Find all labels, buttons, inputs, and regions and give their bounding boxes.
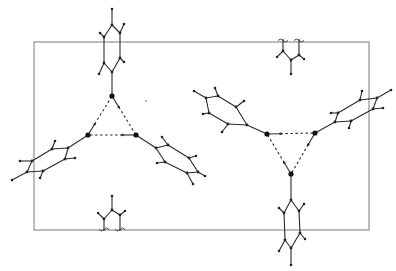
- ring-bond: [165, 162, 187, 173]
- carbon-atom: [188, 157, 191, 160]
- fragment-atom: [282, 50, 285, 53]
- carbon-atom: [208, 112, 211, 115]
- c-h-bond: [236, 101, 244, 107]
- hydrogen-atom: [123, 61, 126, 64]
- ring-bond: [285, 240, 291, 248]
- ring-bond: [187, 172, 198, 173]
- carbon-atom: [111, 71, 114, 74]
- ring-bond: [284, 200, 291, 213]
- n-c-bond: [68, 135, 88, 148]
- ring-bond: [209, 113, 228, 124]
- n-c-bond: [315, 122, 335, 133]
- fragment-atom: [298, 54, 301, 57]
- hydrogen-atom: [278, 207, 281, 210]
- carbon-atom: [103, 36, 106, 39]
- nitrogen-atom: [133, 132, 138, 137]
- n-c-bond: [136, 135, 156, 148]
- carbon-atom: [376, 97, 379, 100]
- fragment-atom: [97, 212, 99, 214]
- hydrogen-atom: [304, 238, 307, 241]
- unit-cell-outline: [34, 42, 369, 230]
- fragment-bond: [291, 55, 299, 60]
- nitrogen-atom: [288, 171, 293, 176]
- carbon-atom: [64, 158, 67, 161]
- carbon-atom: [290, 247, 293, 250]
- ring-bond: [104, 25, 112, 37]
- hydrogen-atom: [99, 32, 102, 35]
- carbon-atom: [227, 123, 230, 126]
- carbon-atom: [217, 95, 220, 98]
- carbon-atom: [284, 239, 287, 242]
- hydrogen-atom: [278, 250, 281, 253]
- hydrogen-bond-dashed: [291, 144, 308, 174]
- n-c-bond: [247, 125, 267, 134]
- ring-bond: [27, 161, 32, 172]
- carbon-atom: [337, 112, 340, 115]
- hydrogen-bond-dashed: [267, 134, 284, 163]
- fragment-atom: [119, 214, 122, 217]
- c-h-bond: [377, 90, 391, 98]
- ring-bond: [32, 149, 52, 161]
- hydrogen-atom: [330, 112, 333, 115]
- hydrogen-atom: [204, 175, 207, 178]
- c-h-bond: [99, 63, 104, 74]
- ring-bond: [104, 63, 112, 72]
- nitrogen-atom: [264, 131, 269, 136]
- fragment-atom: [303, 58, 305, 60]
- ring-bond: [156, 148, 165, 162]
- ring-bond: [236, 107, 247, 125]
- fragment-atom: [290, 59, 293, 62]
- nitrogen-atom: [85, 132, 90, 137]
- ring-bond: [27, 171, 43, 172]
- ring-bond: [373, 98, 377, 109]
- hydrogen-atom: [123, 23, 126, 26]
- carbon-atom: [167, 144, 170, 147]
- c-h-bond: [65, 158, 75, 159]
- carbon-atom: [155, 147, 158, 150]
- ring-bond: [168, 145, 189, 158]
- hydrogen-atom: [243, 100, 246, 103]
- carbon-atom: [67, 147, 70, 150]
- hydrogen-atom: [19, 160, 22, 163]
- fragment-atom: [276, 56, 278, 58]
- carbon-atom: [298, 210, 301, 213]
- fragment-bond: [104, 210, 112, 219]
- fragment-atom: [111, 195, 114, 198]
- carbon-atom: [246, 124, 249, 127]
- trimer-cluster-right: [193, 87, 393, 267]
- ring-bond: [335, 121, 351, 122]
- carbon-atom: [119, 57, 122, 60]
- carbon-atom: [283, 212, 286, 215]
- hydrogen-atom: [193, 90, 196, 93]
- c-h-bond: [12, 172, 27, 180]
- fragment-atom: [111, 209, 114, 212]
- hydrogen-bond-dashed: [280, 133, 315, 134]
- symmetry-center-dot: [145, 100, 147, 102]
- ring-bond: [112, 58, 120, 72]
- carbon-atom: [290, 199, 293, 202]
- carbon-atom: [372, 108, 375, 111]
- hydrogen-atom: [303, 203, 306, 206]
- ring-bond: [112, 25, 120, 33]
- hydrogen-atom: [202, 113, 205, 116]
- carbon-atom: [26, 171, 29, 174]
- hydrogen-atom: [111, 8, 114, 11]
- ring-bond: [206, 96, 218, 98]
- carbon-atom: [103, 62, 106, 65]
- ring-bond: [338, 100, 360, 113]
- hydrogen-atom: [11, 179, 14, 182]
- hydrogen-atom: [39, 177, 42, 180]
- carbon-atom: [235, 106, 238, 109]
- carbon-atom: [31, 160, 34, 163]
- ring-bond: [218, 96, 236, 107]
- hydrogen-bond-dashed: [119, 107, 136, 135]
- hydrogen-atom: [161, 136, 164, 139]
- hydrogen-atom: [54, 140, 57, 143]
- hydrogen-atom: [98, 73, 101, 76]
- ring-bond: [284, 213, 285, 240]
- ring-bond: [291, 233, 300, 248]
- carbon-atom: [197, 171, 200, 174]
- carbon-atom: [111, 24, 114, 27]
- hydrogen-atom: [214, 87, 217, 90]
- carbon-atom: [51, 148, 54, 151]
